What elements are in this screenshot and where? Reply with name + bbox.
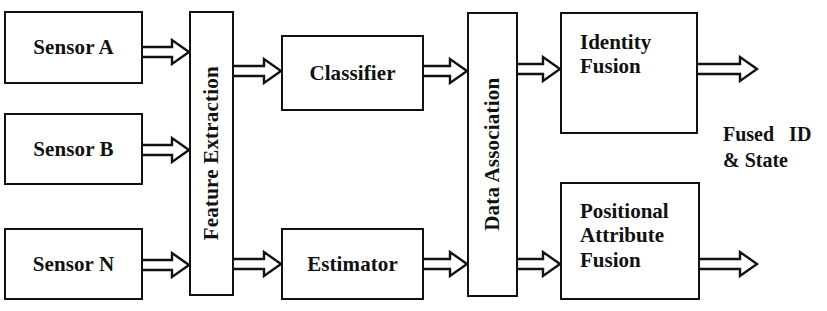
arrow-estimator-to-data-association bbox=[424, 252, 467, 276]
data-fusion-diagram: Sensor A Sensor B Sensor N Feature Extra… bbox=[0, 0, 827, 311]
node-feature-extraction-label: Feature Extraction bbox=[199, 66, 223, 240]
arrow-sensor-a-to-feature-extraction bbox=[143, 40, 189, 64]
arrow-feature-extraction-to-classifier bbox=[234, 59, 281, 83]
node-positional-attribute-fusion[interactable]: Positional Attribute Fusion bbox=[560, 182, 700, 300]
arrow-identity-fusion-output bbox=[698, 57, 757, 81]
node-identity-fusion[interactable]: Identity Fusion bbox=[560, 12, 698, 134]
node-classifier[interactable]: Classifier bbox=[281, 35, 424, 111]
node-identity-fusion-label: Identity Fusion bbox=[580, 30, 651, 79]
arrow-classifier-to-data-association bbox=[424, 59, 467, 83]
node-sensor-n-label: Sensor N bbox=[33, 252, 115, 276]
node-sensor-a[interactable]: Sensor A bbox=[4, 11, 143, 84]
node-feature-extraction[interactable]: Feature Extraction bbox=[189, 11, 234, 296]
node-positional-attribute-fusion-label: Positional Attribute Fusion bbox=[580, 199, 669, 272]
arrow-positional-attribute-fusion-output bbox=[700, 252, 757, 276]
node-classifier-label: Classifier bbox=[309, 61, 395, 85]
arrow-data-association-to-positional-attribute-fusion bbox=[518, 252, 560, 276]
node-sensor-b-label: Sensor B bbox=[33, 137, 113, 161]
node-estimator-label: Estimator bbox=[307, 252, 398, 276]
arrow-sensor-b-to-feature-extraction bbox=[143, 138, 189, 162]
node-sensor-a-label: Sensor A bbox=[33, 35, 113, 59]
node-data-association[interactable]: Data Association bbox=[467, 12, 518, 297]
node-sensor-b[interactable]: Sensor B bbox=[4, 113, 143, 185]
node-data-association-label: Data Association bbox=[480, 78, 504, 231]
arrow-feature-extraction-to-estimator bbox=[234, 252, 281, 276]
node-sensor-n[interactable]: Sensor N bbox=[4, 228, 143, 300]
arrow-data-association-to-identity-fusion bbox=[518, 57, 560, 81]
arrow-sensor-n-to-feature-extraction bbox=[143, 253, 189, 277]
fused-output-label: Fused ID & State bbox=[723, 122, 811, 173]
node-estimator[interactable]: Estimator bbox=[281, 228, 424, 300]
